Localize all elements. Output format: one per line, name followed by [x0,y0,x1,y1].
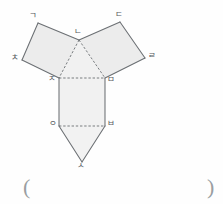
vertex-label-rieul: ㄹ [148,51,156,60]
vertex-label-mieum: ㅁ [107,75,115,84]
vertex-label-chieut: ㅊ [11,53,19,62]
vertex-label-digeut: ㄷ [115,10,123,19]
figure-faces [22,22,145,162]
answer-row: ( ) [0,172,223,204]
vertex-label-nieun: ㄴ [74,27,82,36]
face-bottom-triangle [59,126,105,162]
answer-close-paren: ) [207,176,214,198]
vertex-label-ieung: ㅇ [49,119,57,128]
face-center-rectangle [59,78,105,126]
vertex-label-giyeok: ㄱ [29,11,37,20]
answer-open-paren: ( [23,176,30,198]
vertex-label-bieup: ㅂ [107,119,115,128]
vertex-label-siot: ㅅ [77,161,85,170]
answer-blank-field[interactable] [40,182,200,196]
vertex-label-jieut: ㅈ [48,74,56,83]
diagram-page: ㄱ ㄴ ㄷ ㄹ ㅁ ㅂ ㅅ ㅇ ㅈ ㅊ ( ) [0,0,223,204]
